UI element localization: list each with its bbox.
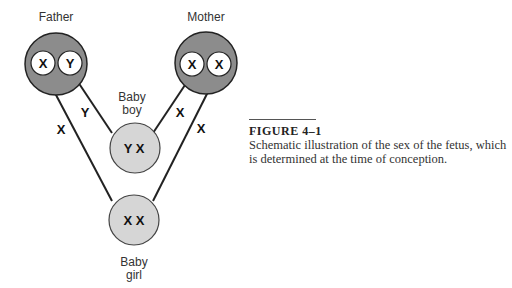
mother-label: Mother — [187, 10, 224, 24]
edge-label-father-y: Y — [81, 105, 90, 120]
father-chrom-y: Y — [66, 56, 75, 71]
mother-x-to-girl-line — [153, 76, 216, 201]
baby-girl-chromosomes: X X — [124, 213, 145, 228]
baby-boy-label-1: Baby — [118, 90, 145, 104]
baby-girl-label-2: girl — [126, 268, 142, 282]
edge-label-father-x: X — [57, 122, 66, 137]
caption-rule — [249, 119, 316, 120]
father-chrom-x: X — [39, 56, 48, 71]
edge-label-mother-x-girl: X — [197, 121, 206, 136]
baby-girl-label-1: Baby — [120, 255, 147, 269]
father-label: Father — [39, 10, 74, 24]
edge-label-mother-x-boy: X — [176, 105, 185, 120]
caption-text: Schematic illustration of the sex of the… — [249, 138, 511, 166]
figure-caption: FIGURE 4–1 Schematic illustration of the… — [249, 119, 511, 166]
baby-boy-label-2: boy — [122, 103, 141, 117]
baby-boy-chromosomes: Y X — [124, 141, 145, 156]
caption-title: FIGURE 4–1 — [249, 124, 511, 138]
mother-chrom-x1: X — [188, 57, 197, 72]
mother-chrom-x2: X — [215, 57, 224, 72]
